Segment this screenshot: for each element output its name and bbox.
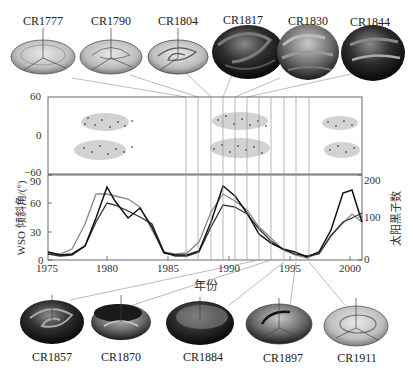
current-sheet-image-cr1911	[324, 298, 388, 346]
ytick-right-0: 0	[364, 253, 370, 265]
xtick-1980: 1980	[96, 262, 118, 274]
ylabel-left: WSO 倾斜角/(°)	[12, 168, 28, 268]
current-sheet-image-cr1804	[148, 28, 208, 74]
current-sheet-image-cr1777	[11, 28, 75, 74]
current-sheet-image-cr1897	[246, 298, 312, 344]
current-sheet-image-cr1844	[341, 25, 405, 81]
figure	[0, 0, 413, 373]
bottom-images	[20, 295, 388, 346]
label-cr1870: CR1870	[101, 350, 141, 365]
current-sheet-image-cr1817	[212, 25, 284, 79]
xtick-2000: 2000	[339, 262, 361, 274]
ytick-60: 60	[30, 90, 41, 102]
label-cr1897: CR1897	[263, 351, 303, 366]
label-cr1857: CR1857	[32, 350, 72, 365]
butterfly-panel	[48, 97, 362, 174]
current-sheet-image-cr1857	[20, 295, 84, 344]
xtick-1995: 1995	[279, 262, 301, 274]
ytick-right-100: 100	[364, 211, 381, 223]
top-images	[11, 24, 405, 81]
xlabel: 年份	[194, 276, 218, 294]
xtick-1975: 1975	[36, 262, 58, 274]
current-sheet-image-cr1830	[277, 24, 339, 80]
ytick-left-90: 90	[30, 175, 41, 187]
label-cr1911: CR1911	[337, 351, 377, 366]
current-sheet-image-cr1790	[80, 28, 142, 74]
ytick-0: 0	[36, 129, 42, 141]
label-cr1884: CR1884	[183, 350, 223, 365]
label-cr1804: CR1804	[158, 14, 198, 29]
current-sheet-image-cr1884	[166, 297, 234, 345]
label-cr1790: CR1790	[91, 14, 131, 29]
label-cr1844: CR1844	[350, 15, 390, 30]
line-panel	[48, 175, 362, 260]
xtick-1990: 1990	[218, 262, 240, 274]
ytick-left-60: 60	[30, 197, 41, 209]
label-cr1777: CR1777	[23, 14, 63, 29]
label-cr1817: CR1817	[223, 13, 263, 28]
ytick-left-30: 30	[30, 226, 41, 238]
xtick-1985: 1985	[157, 262, 179, 274]
label-cr1830: CR1830	[288, 14, 328, 29]
ytick-right-200: 200	[364, 174, 381, 186]
ylabel-right: 太阳黑子数	[387, 178, 403, 258]
